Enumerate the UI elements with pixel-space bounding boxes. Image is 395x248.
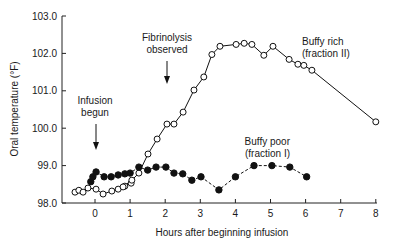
annotation-infusion-line2: begun — [81, 107, 109, 118]
open-circle-marker — [164, 121, 170, 127]
annotation-infusion-begun: Infusion begun — [77, 95, 112, 150]
x-axis-label: Hours after beginning infusion — [156, 227, 289, 238]
open-circle-marker — [261, 52, 267, 58]
filled-circle-marker — [136, 164, 142, 170]
open-circle-marker — [109, 188, 115, 194]
x-tick-label: 6 — [303, 208, 309, 219]
open-circle-marker — [209, 52, 215, 58]
label-buffy-rich-line1: Buffy rich — [302, 36, 344, 47]
open-circle-marker — [217, 43, 223, 49]
x-axis: 012345678 — [62, 199, 379, 219]
label-buffy-poor-line1: Buffy poor — [245, 136, 291, 147]
annotation-fibrinolysis-line2: observed — [146, 44, 187, 55]
filled-circle-marker — [189, 177, 195, 183]
open-circle-marker — [180, 109, 186, 115]
plot-area — [72, 40, 379, 197]
label-buffy-rich: Buffy rich (fraction II) — [302, 36, 350, 59]
open-circle-marker — [191, 87, 197, 93]
filled-circle-marker — [163, 164, 169, 170]
filled-circle-marker — [101, 174, 107, 180]
open-circle-marker — [295, 61, 301, 67]
x-tick-label: 2 — [162, 208, 168, 219]
y-tick-label: 101.0 — [32, 85, 57, 96]
y-axis-label: Oral temperature (°F) — [9, 61, 20, 156]
open-circle-marker — [93, 186, 99, 192]
filled-circle-marker — [93, 169, 99, 175]
open-circle-marker — [286, 56, 292, 62]
open-circle-marker — [201, 74, 207, 80]
arrow-down-icon — [93, 124, 99, 150]
open-circle-marker — [249, 41, 255, 47]
x-tick-label: 0 — [92, 208, 98, 219]
x-tick-label: 1 — [127, 208, 133, 219]
open-circle-marker — [120, 184, 126, 190]
open-circle-marker — [136, 170, 142, 176]
open-circle-marker — [373, 119, 379, 125]
label-buffy-poor: Buffy poor (fraction I) — [245, 136, 291, 159]
open-circle-marker — [85, 185, 91, 191]
filled-circle-marker — [232, 174, 238, 180]
filled-circle-marker — [153, 164, 159, 170]
y-tick-label: 99.0 — [38, 160, 58, 171]
y-tick-label: 103.0 — [32, 11, 57, 22]
open-circle-marker — [145, 151, 151, 157]
filled-circle-marker — [108, 174, 114, 180]
arrow-down-icon — [164, 61, 170, 84]
open-circle-marker — [100, 191, 106, 197]
open-circle-marker — [171, 121, 177, 127]
filled-circle-marker — [127, 170, 133, 176]
temperature-chart: 98.099.0100.0101.0102.0103.0 012345678 O… — [0, 0, 395, 248]
filled-circle-marker — [115, 172, 121, 178]
filled-circle-marker — [144, 167, 150, 173]
annotation-infusion-line1: Infusion — [77, 95, 112, 106]
y-tick-label: 102.0 — [32, 48, 57, 59]
filled-circle-marker — [287, 164, 293, 170]
x-tick-label: 4 — [233, 208, 239, 219]
annotation-fibrinolysis-line1: Fibrinolysis — [142, 32, 192, 43]
open-circle-marker — [270, 43, 276, 49]
open-circle-marker — [309, 67, 315, 73]
y-tick-label: 98.0 — [38, 198, 58, 209]
annotation-fibrinolysis: Fibrinolysis observed — [142, 32, 192, 84]
y-axis: 98.099.0100.0101.0102.0103.0 — [32, 11, 66, 209]
open-circle-marker — [241, 40, 247, 46]
x-tick-label: 7 — [338, 208, 344, 219]
x-tick-label: 3 — [198, 208, 204, 219]
filled-circle-marker — [269, 162, 275, 168]
filled-circle-marker — [180, 171, 186, 177]
y-tick-label: 100.0 — [32, 123, 57, 134]
open-circle-marker — [129, 177, 135, 183]
label-buffy-rich-line2: (fraction II) — [302, 48, 350, 59]
x-tick-label: 5 — [268, 208, 274, 219]
filled-circle-marker — [171, 170, 177, 176]
open-circle-marker — [233, 41, 239, 47]
filled-circle-marker — [216, 187, 222, 193]
x-tick-label: 8 — [373, 208, 379, 219]
label-buffy-poor-line2: (fraction I) — [245, 148, 290, 159]
open-circle-marker — [301, 62, 307, 68]
open-circle-marker — [154, 136, 160, 142]
filled-circle-marker — [251, 162, 257, 168]
filled-circle-marker — [303, 174, 309, 180]
filled-circle-marker — [198, 174, 204, 180]
